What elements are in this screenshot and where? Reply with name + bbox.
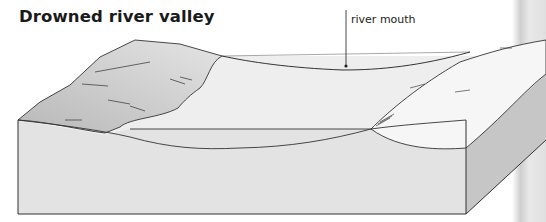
river-mouth-dot — [344, 64, 347, 67]
block-diagram — [0, 0, 546, 222]
